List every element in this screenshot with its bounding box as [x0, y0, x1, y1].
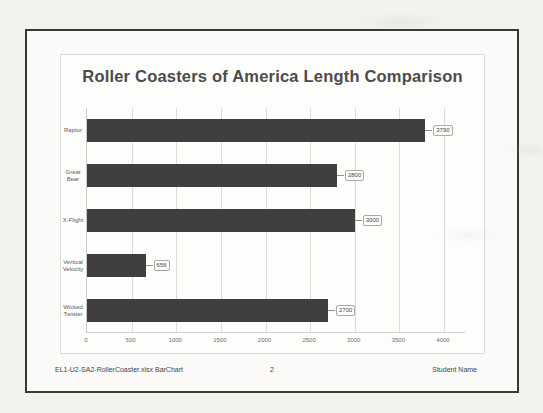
- data-label: 2800: [345, 170, 364, 181]
- x-tick-label: 2000: [255, 337, 275, 343]
- bar-x-flight: [87, 209, 355, 232]
- chart-frame: Roller Coasters of America Length Compar…: [60, 54, 485, 354]
- data-label: 656: [154, 260, 170, 271]
- bar-row: 3790: [87, 108, 465, 153]
- bar-row: 3000: [87, 198, 465, 243]
- data-label-leader-line: [328, 310, 335, 311]
- category-label: VerticalVelocity: [61, 243, 85, 288]
- bar-wicked-twister: [87, 299, 328, 322]
- category-label: GreatBear: [61, 153, 85, 198]
- data-label-leader-line: [146, 265, 153, 266]
- category-label: X-Flight: [61, 198, 85, 243]
- bar-row: 2700: [87, 288, 465, 333]
- data-label-leader-line: [337, 175, 344, 176]
- data-label: 3790: [433, 125, 452, 136]
- x-tick-label: 3000: [344, 337, 364, 343]
- x-tick-label: 1000: [165, 337, 185, 343]
- data-label: 3000: [363, 215, 382, 226]
- bar-raptor: [87, 119, 425, 142]
- x-tick-label: 4000: [433, 337, 453, 343]
- bar-row: 2800: [87, 153, 465, 198]
- data-label-leader-line: [425, 130, 432, 131]
- x-tick-label: 2500: [299, 337, 319, 343]
- category-label: WickedTwister: [61, 288, 85, 333]
- x-tick-label: 0: [76, 337, 96, 343]
- chart-title: Roller Coasters of America Length Compar…: [61, 67, 484, 86]
- category-label: Raptor: [61, 108, 85, 153]
- data-label: 2700: [336, 305, 355, 316]
- footer-student-name: Student Name: [432, 366, 477, 373]
- x-tick-label: 500: [121, 337, 141, 343]
- bar-great-bear: [87, 164, 337, 187]
- x-tick-label: 3500: [388, 337, 408, 343]
- x-tick-label: 1500: [210, 337, 230, 343]
- scanned-worksheet-page: Roller Coasters of America Length Compar…: [25, 29, 519, 393]
- plot-area: 3790280030006562700: [86, 108, 465, 333]
- data-label-leader-line: [355, 220, 362, 221]
- bar-vertical-velocity: [87, 254, 146, 277]
- bar-row: 656: [87, 243, 465, 288]
